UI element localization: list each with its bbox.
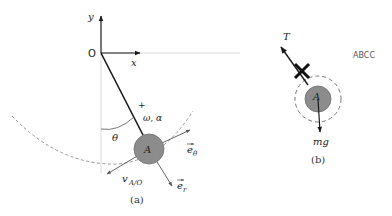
caption-b: (b) xyxy=(311,154,325,165)
svg-text:A/O: A/O xyxy=(128,179,142,187)
pendulum-diagram: y x O θ + ω, α A e θ e r v A/O xyxy=(0,0,392,216)
e-theta-label: e θ xyxy=(187,144,198,158)
plus-sign-label: + xyxy=(138,100,146,110)
mass-a-fbd-label: A xyxy=(312,91,320,102)
tension-vector xyxy=(281,47,308,85)
theta-arc xyxy=(101,117,134,130)
mass-a-label: A xyxy=(143,144,151,155)
trajectory-arc xyxy=(12,111,193,164)
panel-b: A T mg (b) ABCC xyxy=(281,31,375,165)
e-r-label: e r xyxy=(177,180,187,194)
panel-a: y x O θ + ω, α A e θ e r v A/O xyxy=(12,11,240,205)
svg-text:v: v xyxy=(122,173,128,184)
x-axis-label: x xyxy=(131,57,137,68)
tension-label: T xyxy=(283,31,291,42)
svg-text:θ: θ xyxy=(193,150,198,158)
pendulum-rod xyxy=(101,53,143,135)
svg-text:r: r xyxy=(183,186,187,194)
caption-a: (a) xyxy=(130,194,144,205)
theta-label: θ xyxy=(112,132,118,143)
stray-text: ABCC xyxy=(353,51,375,60)
y-axis-label: y xyxy=(87,11,94,22)
weight-label: mg xyxy=(313,136,329,147)
origin-label: O xyxy=(88,48,96,59)
velocity-label: v A/O xyxy=(122,173,142,187)
omega-alpha-label: ω, α xyxy=(143,113,162,123)
